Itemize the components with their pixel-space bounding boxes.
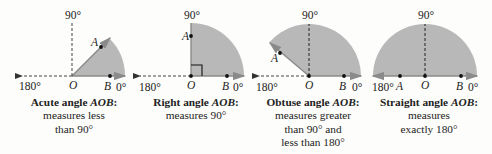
caption-title: Right angle AOB: — [140, 96, 252, 109]
caption-line: exactly 180° — [368, 123, 490, 136]
caption-title: Straight angle AOB: — [368, 96, 490, 109]
label-O: O — [421, 79, 430, 91]
label-0: 0° — [116, 81, 127, 93]
caption-line: than 90° and — [254, 123, 372, 136]
acute-angle-wedge — [72, 39, 125, 77]
obtuse-caption: Obtuse angle AOB: measures greater than … — [254, 96, 372, 150]
caption-title: Obtuse angle AOB: — [254, 96, 372, 109]
point-O — [307, 74, 311, 78]
label-A: A — [90, 36, 99, 48]
label-180: 180° — [139, 81, 161, 93]
obtuse-angle-wedge — [269, 24, 361, 76]
point-B — [225, 74, 229, 78]
caption-line: measures less — [18, 109, 130, 122]
label-B: B — [104, 80, 111, 92]
label-90: 90° — [65, 9, 82, 21]
point-A — [99, 45, 103, 49]
acute-caption: Acute angle AOB: measures less than 90° — [18, 96, 130, 136]
point-A — [278, 51, 282, 55]
label-180: 180° — [19, 80, 41, 92]
straight-caption: Straight angle AOB: measures exactly 180… — [368, 96, 490, 136]
label-A: A — [270, 52, 279, 64]
label-90: 90° — [418, 9, 435, 21]
right-caption: Right angle AOB: measures 90° — [140, 96, 252, 123]
right-angle-wedge — [191, 23, 244, 76]
caption-line: less than 180° — [254, 136, 372, 149]
label-0: 0° — [352, 81, 363, 93]
caption-title: Acute angle AOB: — [18, 96, 130, 109]
caption-line: measures greater — [254, 109, 372, 122]
obtuse-angle-diagram: 90° 180° 0° O A B — [256, 9, 363, 93]
label-B: B — [339, 80, 346, 92]
acute-angle-diagram: 90° 180° 0° O A B — [19, 9, 127, 93]
label-90: 90° — [302, 9, 319, 21]
point-A — [189, 34, 193, 38]
point-B — [459, 74, 463, 78]
label-B: B — [456, 80, 463, 92]
label-180: 180° — [256, 81, 278, 93]
label-A: A — [181, 30, 190, 42]
point-A — [398, 74, 402, 78]
label-O: O — [187, 79, 196, 91]
caption-line: measures — [368, 109, 490, 122]
right-angle-diagram: 90° 180° 0° O A B — [139, 9, 244, 93]
straight-angle-diagram: 90° 180° 0° O A B — [372, 9, 479, 93]
point-O — [189, 74, 193, 78]
label-0: 0° — [468, 81, 479, 93]
point-B — [108, 74, 112, 78]
caption-line: than 90° — [18, 123, 130, 136]
label-B: B — [222, 80, 229, 92]
label-O: O — [305, 79, 314, 91]
label-90: 90° — [184, 9, 201, 21]
label-180: 180° — [372, 81, 394, 93]
point-B — [342, 74, 346, 78]
caption-line: measures 90° — [140, 109, 252, 122]
label-A: A — [395, 80, 404, 92]
label-0: 0° — [233, 81, 244, 93]
point-O — [423, 74, 427, 78]
label-O: O — [69, 79, 78, 91]
